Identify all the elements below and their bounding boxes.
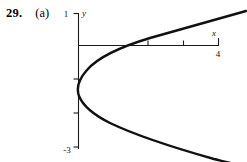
parabola-plot: y x 1 -3 4 [0,0,247,162]
y-tick-label-1: 1 [64,9,69,19]
x-axis-label: x [211,28,216,38]
x-tick-label-4: 4 [216,49,221,59]
figure-container: 29. (a) y x 1 -3 4 [0,0,247,162]
parabola-curve [78,11,246,162]
y-axis-label: y [81,8,86,18]
y-tick-label-minus3: -3 [63,145,71,155]
